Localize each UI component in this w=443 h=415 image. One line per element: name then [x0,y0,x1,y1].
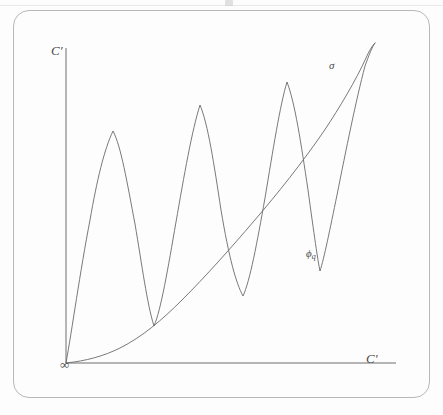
curve-phi-q [66,43,375,363]
sigma-curve-label: σ [329,60,334,71]
origin-label: ∞ [60,358,69,371]
phi-curve-label-subscript: q [312,252,316,261]
phi-curve-label: ϕq [306,248,316,261]
x-axis-label: C′ [366,352,378,365]
y-axis-label: C′ [51,44,63,57]
curve-sigma [66,43,375,363]
figure-page: C′ C′ ∞ σ ϕq [0,0,443,415]
